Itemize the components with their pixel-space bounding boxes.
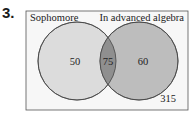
- advanced-algebra-label: In advanced algebra: [99, 12, 184, 23]
- venn-diagram: Sophomore In advanced algebra 50 75 60 3…: [0, 0, 196, 114]
- sophomore-only-value: 50: [70, 56, 81, 67]
- outside-value: 315: [160, 93, 176, 104]
- sophomore-label: Sophomore: [30, 12, 79, 23]
- advanced-algebra-only-value: 60: [138, 56, 149, 67]
- intersection-value: 75: [103, 56, 114, 67]
